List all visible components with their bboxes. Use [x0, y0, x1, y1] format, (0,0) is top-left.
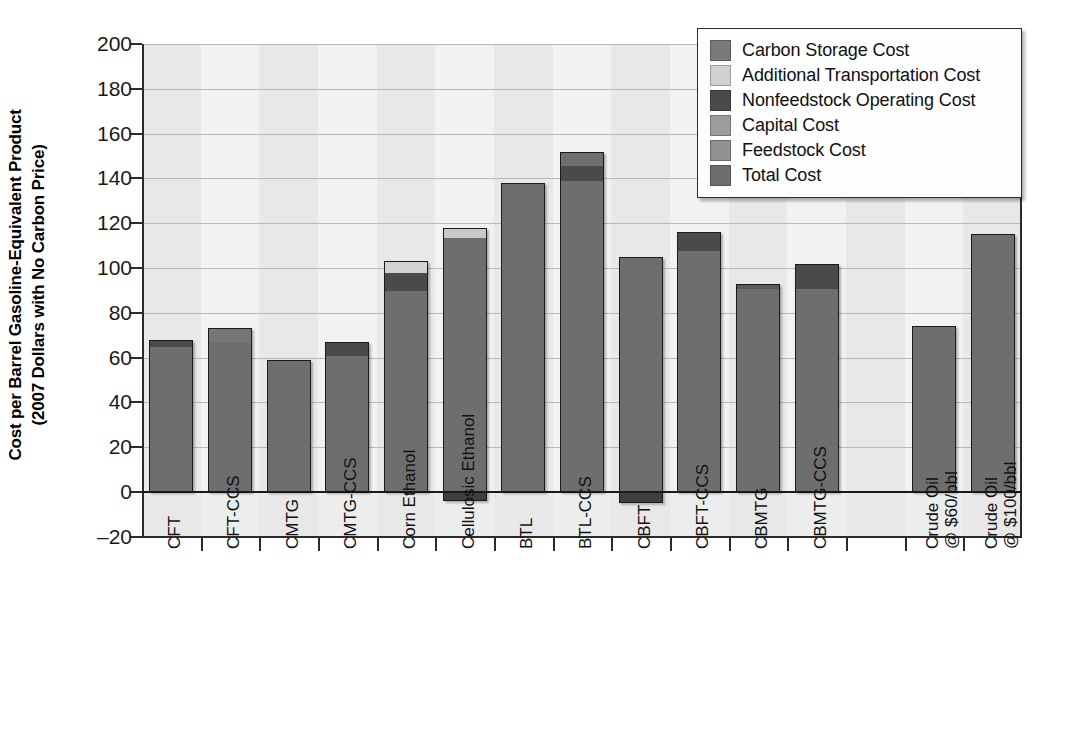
x-tick-label-line1: Crude Oil [982, 477, 1001, 549]
bar[interactable] [267, 360, 311, 492]
x-tick-mark [201, 537, 203, 551]
legend-item[interactable]: Feedstock Cost [710, 138, 1011, 163]
bar[interactable] [208, 328, 252, 492]
bar-segment [385, 262, 427, 273]
legend-swatch-icon [710, 165, 731, 186]
x-tick-label: BTL-CCS [576, 476, 595, 549]
x-tick-mark [787, 537, 789, 551]
legend: Carbon Storage CostAdditional Transporta… [697, 28, 1022, 198]
y-axis-line [142, 44, 144, 537]
x-tick-label-line1: CBFT-CCS [693, 464, 712, 549]
legend-item-label: Nonfeedstock Operating Cost [742, 90, 975, 111]
bar[interactable] [149, 340, 193, 492]
y-tick-label: 120 [97, 211, 132, 235]
legend-item[interactable]: Nonfeedstock Operating Cost [710, 88, 1011, 113]
bar-segment [678, 251, 720, 491]
x-tick-label-line1: BTL-CCS [576, 476, 595, 549]
x-tick-label-line1: CFT [165, 516, 184, 549]
x-tick-label: CFT [165, 516, 184, 549]
bar[interactable] [619, 257, 663, 492]
bar-segment [796, 265, 838, 289]
x-tick-label: CBFT-CCS [693, 464, 712, 549]
x-tick-label-line1: CBMTG-CCS [811, 446, 830, 549]
bar-segment [913, 327, 955, 491]
bar-segment [737, 289, 779, 491]
bar-segment [150, 347, 192, 491]
x-tick-label-line1: Crude Oil [923, 477, 942, 549]
x-tick-label-line1: BTL [517, 518, 536, 549]
y-tick-label: 0 [120, 480, 132, 504]
y-tick-label: –20 [97, 525, 132, 549]
x-tick-label-line2: @ $60/bbl [942, 471, 961, 549]
bar[interactable] [971, 234, 1015, 492]
legend-swatch-icon [710, 115, 731, 136]
x-tick-label-line1: CMTG [283, 499, 302, 549]
bar-segment [209, 343, 251, 491]
legend-swatch-icon [710, 90, 731, 111]
x-tick-label: BTL [517, 518, 536, 549]
x-tick-mark [435, 537, 437, 551]
bar-segment [209, 329, 251, 342]
x-tick-label: Corn Ethanol [400, 450, 419, 549]
y-tick-label: 160 [97, 122, 132, 146]
legend-item-label: Capital Cost [742, 115, 839, 136]
y-tick-label: 40 [109, 390, 132, 414]
chart-root: Cost per Barrel Gasoline-Equivalent Prod… [0, 0, 1065, 749]
y-tick-label: 20 [109, 435, 132, 459]
legend-item-label: Total Cost [742, 165, 821, 186]
x-tick-mark [729, 537, 731, 551]
x-tick-mark [494, 537, 496, 551]
legend-item-label: Additional Transportation Cost [742, 65, 980, 86]
x-tick-label-line1: CMTG-CCS [341, 457, 360, 549]
bar[interactable] [736, 284, 780, 492]
bar[interactable] [560, 152, 604, 492]
y-tick-label: 200 [97, 32, 132, 56]
legend-swatch-icon [710, 140, 731, 161]
bar-segment [620, 258, 662, 491]
bar-segment [268, 361, 310, 491]
bar-segment [502, 184, 544, 491]
x-tick-label-line1: CFT-CCS [224, 475, 243, 549]
bar-segment [385, 273, 427, 291]
x-tick-mark [318, 537, 320, 551]
legend-swatch-icon [710, 65, 731, 86]
y-axis-title-line2: (2007 Dollars with No Carbon Price) [28, 25, 51, 545]
y-tick-label: 60 [109, 346, 132, 370]
x-tick-mark [670, 537, 672, 551]
x-tick-mark [259, 537, 261, 551]
x-tick-label: CBMTG [752, 488, 771, 549]
x-tick-label: CMTG [283, 499, 302, 549]
x-tick-label-line1: Corn Ethanol [400, 450, 419, 549]
x-tick-label: CBMTG-CCS [811, 446, 830, 549]
y-axis-title-line1: Cost per Barrel Gasoline-Equivalent Prod… [6, 109, 25, 460]
y-tick-label: 100 [97, 256, 132, 280]
x-tick-mark [377, 537, 379, 551]
legend-item[interactable]: Total Cost [710, 163, 1011, 188]
x-tick-label: CFT-CCS [224, 475, 243, 549]
x-tick-label-line2: @ $100/bbl [1001, 462, 1020, 549]
x-tick-label: Crude Oil@ $60/bbl [923, 471, 961, 549]
legend-item[interactable]: Carbon Storage Cost [710, 38, 1011, 63]
x-tick-mark [553, 537, 555, 551]
bar[interactable] [677, 232, 721, 492]
x-tick-label: CMTG-CCS [341, 457, 360, 549]
x-tick-label-line1: CBMTG [752, 488, 771, 549]
x-tick-label-line1: CBFT [635, 505, 654, 549]
y-axis-title: Cost per Barrel Gasoline-Equivalent Prod… [5, 25, 51, 545]
bar-segment [678, 233, 720, 251]
bar-segment [561, 166, 603, 182]
bar[interactable] [501, 183, 545, 492]
bar-segment [326, 343, 368, 356]
legend-swatch-icon [710, 40, 731, 61]
x-tick-mark [611, 537, 613, 551]
legend-item[interactable]: Capital Cost [710, 113, 1011, 138]
x-tick-mark [963, 537, 965, 551]
bar-segment [972, 235, 1014, 491]
bar[interactable] [912, 326, 956, 492]
x-tick-mark [905, 537, 907, 551]
bar-segment [561, 181, 603, 491]
y-tick-label: 140 [97, 166, 132, 190]
bar-segment [150, 341, 192, 348]
legend-item[interactable]: Additional Transportation Cost [710, 63, 1011, 88]
legend-item-label: Carbon Storage Cost [742, 40, 909, 61]
